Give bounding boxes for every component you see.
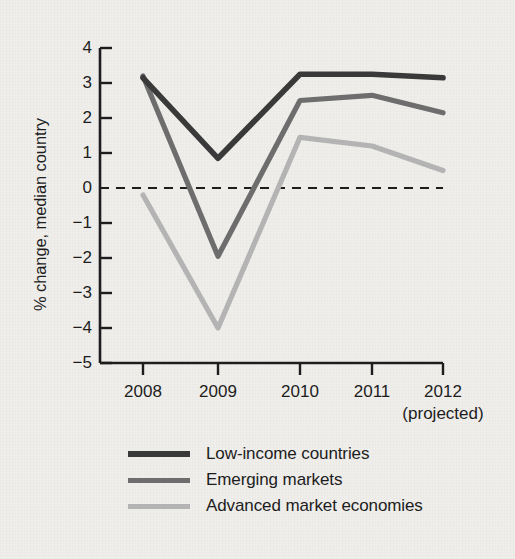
x-tick-label: 2011: [354, 382, 391, 402]
y-tick-label: 2: [58, 108, 92, 128]
chart-legend: Low-income countries Emerging markets Ad…: [128, 441, 488, 519]
legend-item-emerging-markets: Emerging markets: [128, 467, 488, 493]
plot-area: % change, median country: [0, 0, 515, 559]
legend-swatch-icon: [128, 504, 190, 509]
legend-item-advanced-market-economies: Advanced market economies: [128, 493, 488, 519]
projected-annotation: (projected): [402, 404, 483, 424]
legend-swatch-icon: [128, 478, 190, 483]
x-tick-label: 2010: [281, 382, 319, 402]
x-tick-label: 2009: [199, 382, 237, 402]
series-line-advanced-market-economies: [143, 137, 443, 328]
legend-label: Advanced market economies: [206, 496, 423, 516]
x-tick-label: 2008: [124, 382, 162, 402]
series-line-emerging-markets: [143, 76, 443, 256]
legend-swatch-icon: [128, 451, 190, 457]
y-tick-label: −1: [58, 213, 92, 233]
legend-label: Emerging markets: [206, 470, 342, 490]
x-tick-label: 2012: [424, 382, 462, 402]
chart-figure: % change, median country: [0, 0, 515, 559]
y-tick-label: −4: [58, 318, 92, 338]
legend-label: Low-income countries: [206, 444, 369, 464]
legend-item-low-income-countries: Low-income countries: [128, 441, 488, 467]
y-tick-label: 4: [58, 38, 92, 58]
y-tick-label: 1: [58, 143, 92, 163]
y-tick-label: 0: [58, 178, 92, 198]
y-tick-label: 3: [58, 73, 92, 93]
y-tick-label: −5: [58, 353, 92, 373]
y-tick-label: −2: [58, 248, 92, 268]
y-tick-label: −3: [58, 283, 92, 303]
y-axis-ticks: [100, 48, 112, 363]
x-axis-ticks: [143, 363, 443, 375]
